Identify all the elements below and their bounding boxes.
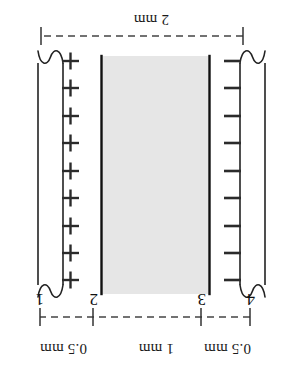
dimension-label-middle-gap: 1 mm: [139, 340, 174, 357]
diagram-vector-layer: [0, 0, 303, 381]
electrode-right-bottom-break: [38, 51, 63, 64]
plus-mark: [62, 80, 79, 97]
dimension-label-total-width: 2 mm: [134, 11, 169, 28]
plus-mark: [62, 108, 79, 125]
electrode-left-bottom-break: [240, 51, 265, 64]
dimension-label-left-gap: 0.5 mm: [204, 340, 251, 357]
plus-mark: [62, 272, 79, 289]
marker-label-3: 3: [198, 289, 207, 309]
plus-mark: [62, 163, 79, 180]
rotated-diagram-stage: 0.5 mm 1 mm 0.5 mm 2 mm 4 3 2 1: [0, 0, 303, 381]
marker-label-1: 1: [36, 289, 45, 309]
marker-label-2: 2: [90, 289, 99, 309]
plus-mark: [62, 53, 79, 70]
plus-mark: [62, 135, 79, 152]
gap-region-fill: [101, 56, 209, 294]
dimension-label-right-gap: 0.5 mm: [40, 340, 87, 357]
plus-mark: [62, 245, 79, 262]
plus-mark: [62, 190, 79, 207]
plus-mark: [62, 218, 79, 235]
positive-charge-marks: [62, 53, 79, 289]
negative-charge-marks: [224, 61, 241, 280]
figure-root: 0.5 mm 1 mm 0.5 mm 2 mm 4 3 2 1: [0, 0, 303, 381]
marker-label-4: 4: [247, 289, 256, 309]
